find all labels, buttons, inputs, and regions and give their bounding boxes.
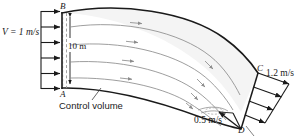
figure-drawing: [0, 0, 296, 139]
recirculation-marks: [198, 107, 228, 114]
outlet-velocity-envelope: [265, 84, 289, 123]
inlet-velocity-arrows: [41, 12, 60, 89]
inlet-velocity-label: V = 1 m/s: [2, 28, 39, 38]
point-d-leader: [246, 126, 254, 136]
outlet-velocity-inner-label: 0.5 m/s: [194, 116, 222, 126]
control-volume-dashed-boundary: [63, 13, 67, 88]
channel-width-label: 10 m: [68, 42, 86, 51]
point-c-label: C: [257, 64, 263, 73]
point-b-label: B: [60, 2, 66, 11]
point-a-label: A: [60, 90, 66, 99]
figure-control-volume: V = 1 m/s B A 10 m Control volume C D 1.…: [0, 0, 296, 139]
point-d-label: D: [238, 126, 245, 135]
control-volume-label: Control volume: [59, 101, 123, 111]
control-volume-body: [62, 8, 258, 112]
outlet-velocity-outer-label: 1.2 m/s: [266, 69, 294, 79]
